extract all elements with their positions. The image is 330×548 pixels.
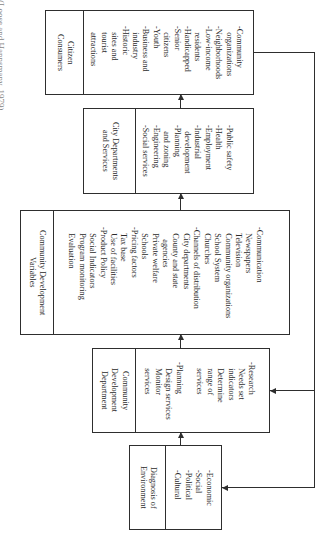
city-departments-title: City Departments and Services bbox=[99, 122, 120, 180]
variables-header: Community Development Variables bbox=[21, 211, 54, 334]
community-development-variables-box: Community Development Variables -Communi… bbox=[20, 210, 290, 335]
diagnosis-of-environment-box: Diagnosis of Environment -Economic -Soci… bbox=[129, 445, 222, 530]
arrow-up-icon bbox=[178, 94, 184, 100]
diagnosis-items: -Economic -Social -Political -Cultural bbox=[166, 446, 221, 529]
city-departments-box: City Departments and Services -Public sa… bbox=[83, 108, 254, 194]
city-departments-header: City Departments and Services bbox=[84, 109, 136, 193]
department-list: -Research Needs set indicators Determine… bbox=[142, 362, 256, 420]
arrow-left-icon bbox=[222, 485, 228, 491]
figure-caption: (Loose and Hannsmany, 1979) bbox=[0, 0, 6, 110]
feedback-line-to-diagnosis bbox=[222, 487, 315, 488]
arrow-left-icon bbox=[270, 388, 276, 394]
department-header: Community Development Department bbox=[93, 349, 136, 432]
department-title: Community Development Department bbox=[98, 368, 129, 412]
arrow-up-icon bbox=[178, 432, 184, 438]
variables-title: Community Development Variables bbox=[27, 230, 48, 315]
arrow-up-icon bbox=[178, 193, 184, 199]
variables-list: -Communication Newspapers Television Com… bbox=[66, 227, 264, 318]
department-items: -Research Needs set indicators Determine… bbox=[136, 349, 269, 432]
citizen-consumers-items: -Community organizations -Neighborhoods … bbox=[84, 11, 253, 94]
diagnosis-header: Diagnosis of Environment bbox=[130, 446, 166, 529]
community-development-department-box: Community Development Department -Resear… bbox=[92, 348, 270, 433]
feedback-line-to-department bbox=[270, 390, 315, 391]
city-departments-list: -Public safety -Health -Employment -Indu… bbox=[140, 125, 234, 177]
citizen-consumers-list: -Community organizations -Neighborhoods … bbox=[88, 26, 244, 79]
citizen-consumers-box: Citizen Consumers -Community organizatio… bbox=[45, 10, 254, 95]
diagnosis-title: Diagnosis of Environment bbox=[137, 466, 158, 509]
city-departments-items: -Public safety -Health -Employment -Indu… bbox=[136, 109, 253, 193]
variables-items: -Communication Newspapers Television Com… bbox=[54, 211, 289, 334]
diagnosis-list: -Economic -Social -Political -Cultural bbox=[172, 470, 214, 506]
feedback-line-top bbox=[254, 52, 315, 53]
arrow-up-icon bbox=[178, 334, 184, 340]
feedback-line-vertical bbox=[314, 52, 315, 488]
citizen-consumers-title: Citizen Consumers bbox=[54, 34, 75, 71]
citizen-consumers-header: Citizen Consumers bbox=[46, 11, 84, 94]
